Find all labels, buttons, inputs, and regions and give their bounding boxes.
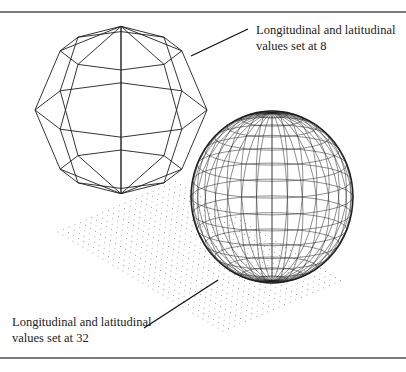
wireframe-sphere-low-resolution: [35, 22, 207, 198]
callout-label-line: Longitudinal and latitudinal: [12, 314, 152, 330]
wireframe-sphere-high-resolution: [191, 111, 353, 283]
callout-label-low-resolution: Longitudinal and latitudinal values set …: [256, 22, 396, 54]
callout-leader-line-top: [191, 29, 248, 56]
ground-plane-dot-grid: [57, 181, 341, 332]
callout-leader-line-bottom: [144, 280, 218, 328]
callout-label-line: values set at 8: [256, 38, 396, 54]
callout-label-line: Longitudinal and latitudinal: [256, 22, 396, 38]
callout-label-line: values set at 32: [12, 330, 152, 346]
callout-label-high-resolution: Longitudinal and latitudinal values set …: [12, 314, 152, 346]
